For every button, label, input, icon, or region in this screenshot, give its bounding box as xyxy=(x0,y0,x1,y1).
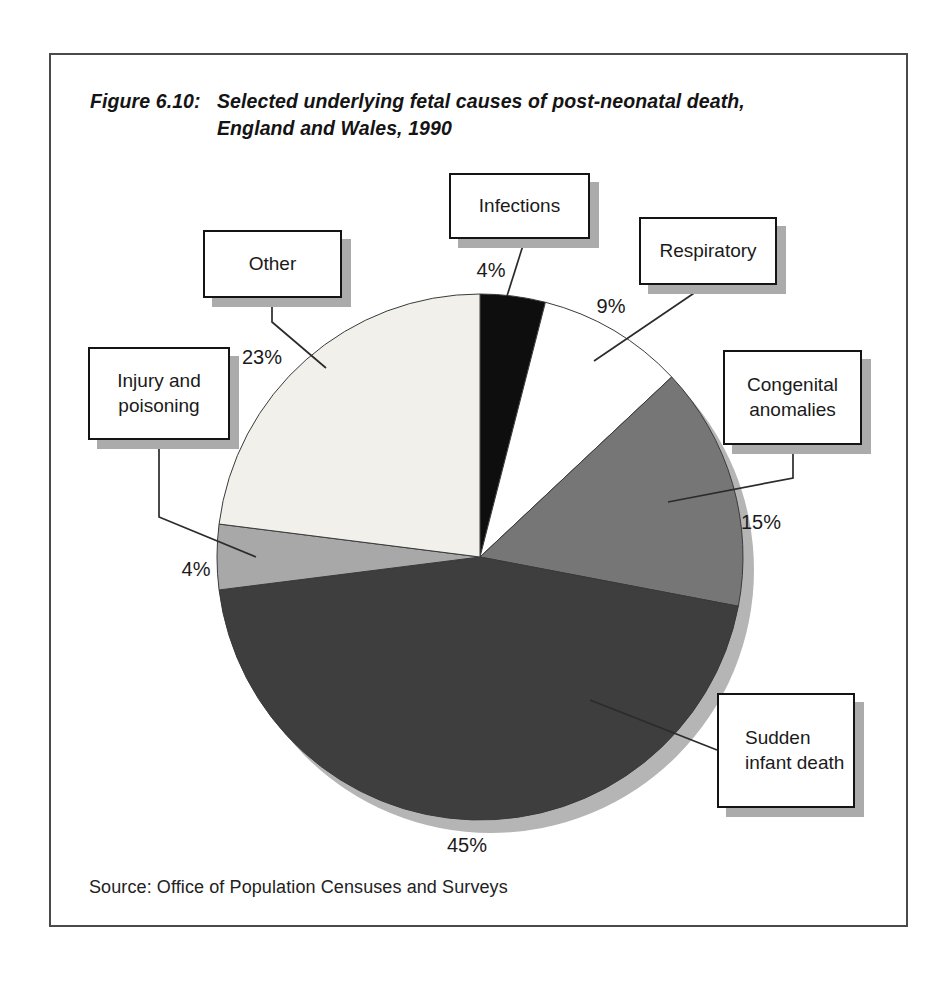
callout-box-infections: Infections xyxy=(449,173,590,239)
pct-label-injury-and-poisoning: 4% xyxy=(182,558,211,581)
pie-slice-other xyxy=(219,294,480,557)
leader-line-infections xyxy=(507,239,525,296)
callout-label-injury-and-poisoning: Injury and poisoning xyxy=(90,369,228,418)
callout-label-infections: Infections xyxy=(479,194,560,218)
source-note: Source: Office of Population Censuses an… xyxy=(89,877,508,898)
callout-box-other: Other xyxy=(203,230,342,298)
callout-box-respiratory: Respiratory xyxy=(639,217,777,285)
callout-label-sudden-infant-death: Sudden infant death xyxy=(745,726,853,775)
pct-label-congenital-anomalies: 15% xyxy=(741,511,781,534)
callout-box-congenital-anomalies: Congenital anomalies xyxy=(723,350,862,445)
callout-label-other: Other xyxy=(249,252,297,276)
pct-label-respiratory: 9% xyxy=(597,295,626,318)
scanned-page: { "figure": { "label": "Figure 6.10:", "… xyxy=(0,0,951,982)
callout-label-congenital-anomalies: Congenital anomalies xyxy=(725,373,860,422)
pct-label-infections: 4% xyxy=(477,259,506,282)
pie-slice-sudden-infant-death xyxy=(219,557,738,820)
pct-label-sudden-infant-death: 45% xyxy=(447,834,487,857)
callout-box-injury-and-poisoning: Injury and poisoning xyxy=(88,347,230,440)
callout-label-respiratory: Respiratory xyxy=(659,239,756,263)
callout-box-sudden-infant-death: Sudden infant death xyxy=(717,693,855,808)
pct-label-other: 23% xyxy=(242,346,282,369)
